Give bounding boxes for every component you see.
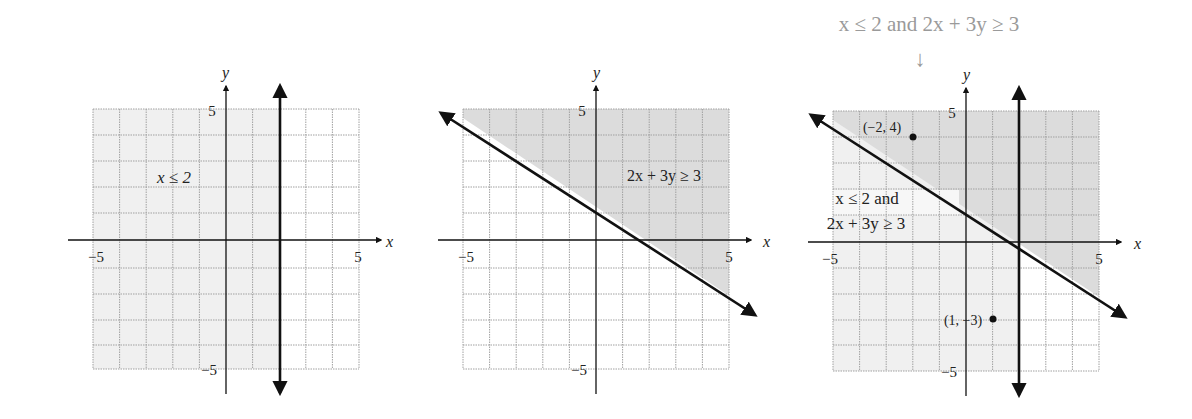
x-axis-label: x (385, 233, 393, 250)
tick-y-max: 5 (208, 103, 216, 119)
y-axis-label: y (591, 64, 601, 82)
tick-x-max: 5 (725, 249, 733, 265)
region-label: 2x + 3y ≥ 3 (627, 167, 701, 185)
shaded-region (93, 109, 279, 369)
y-axis-label: y (220, 64, 230, 82)
tick-y-min: −5 (571, 362, 587, 378)
point-neg2-4 (910, 134, 917, 141)
tick-y-min: −5 (201, 362, 217, 378)
caption-text: x ≤ 2 and 2x + 3y ≥ 3 (839, 12, 1020, 36)
tick-x-min: −5 (822, 251, 838, 267)
region-label-line-2: 2x + 3y ≥ 3 (827, 214, 905, 233)
tick-y-max: 5 (578, 103, 586, 119)
x-axis-label: x (1133, 235, 1141, 252)
point-label: (1, −3) (944, 313, 983, 329)
x-axis-label: x (762, 233, 770, 250)
caption: x ≤ 2 and 2x + 3y ≥ 3 ↓ (839, 12, 1020, 71)
region-label-line-1: x ≤ 2 and (835, 189, 899, 208)
down-arrow-icon: ↓ (915, 46, 926, 71)
tick-y-max: 5 (948, 105, 956, 121)
graph-2: x y −5 5 5 −5 2x + 3y ≥ 3 (438, 64, 770, 394)
graph-1: x y −5 5 5 −5 x ≤ 2 (68, 64, 393, 394)
y-axis-label: y (961, 66, 971, 84)
diagram-canvas: x ≤ 2 and 2x + 3y ≥ 3 ↓ x y −5 5 5 −5 (0, 0, 1192, 419)
point-1-neg3 (990, 316, 997, 323)
graph-3: (−2, 4) (1, −3) x y −5 5 5 −5 x ≤ 2 and … (808, 66, 1141, 396)
tick-x-max: 5 (354, 249, 362, 265)
tick-x-min: −5 (458, 249, 474, 265)
point-label: (−2, 4) (863, 120, 902, 136)
tick-x-min: −5 (88, 249, 104, 265)
tick-x-max: 5 (1095, 251, 1103, 267)
tick-y-min: −5 (941, 364, 957, 380)
region-label: x ≤ 2 (156, 168, 191, 187)
